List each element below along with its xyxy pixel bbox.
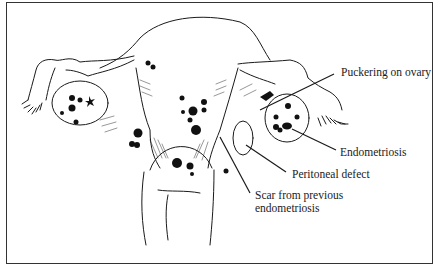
left-fallopian-tube xyxy=(28,56,134,100)
endometriosis-lesions xyxy=(60,61,300,177)
leader-endometriosis xyxy=(292,129,336,150)
right-fimbriae xyxy=(318,116,348,126)
left-fimbriae xyxy=(22,100,42,114)
label-scar-line1: Scar from previous xyxy=(255,189,343,201)
leader-puckering xyxy=(260,74,334,110)
cervix-outline xyxy=(142,170,214,245)
label-endometriosis: Endometriosis xyxy=(340,146,406,158)
leader-scar xyxy=(220,137,250,193)
right-ovary xyxy=(265,94,309,142)
peritoneal-defect-shape xyxy=(233,121,253,155)
label-peritoneal-defect: Peritoneal defect xyxy=(292,168,370,180)
right-fallopian-tube xyxy=(238,60,342,110)
endometriosis-illustration xyxy=(0,0,442,273)
label-puckering-on-ovary: Puckering on ovary xyxy=(341,66,431,78)
leader-peritoneal xyxy=(246,145,286,172)
uterus-outline xyxy=(100,17,270,68)
left-ovary xyxy=(52,81,108,125)
label-scar-line2: endometriosis xyxy=(255,202,320,214)
